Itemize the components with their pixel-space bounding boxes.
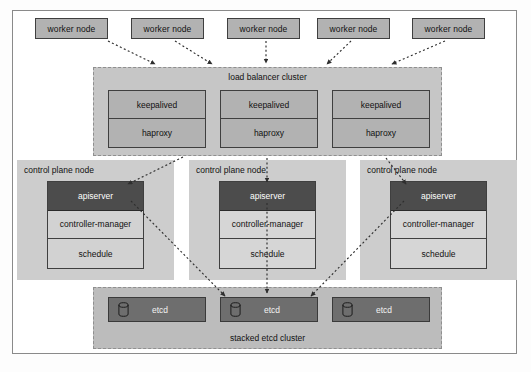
- diagram-canvas: worker node worker node worker node work…: [0, 0, 531, 372]
- database-cylinder-icon: [230, 302, 241, 317]
- control-plane-node-label: control plane node: [24, 165, 94, 175]
- haproxy-box: haproxy: [333, 119, 429, 147]
- worker-node-label: worker node: [330, 24, 378, 34]
- keepalived-box: keepalived: [109, 91, 205, 119]
- control-plane-component-stack: apiserver controller-manager schedule: [390, 181, 487, 269]
- controller-manager-box: controller-manager: [391, 211, 486, 240]
- worker-node-box-5: worker node: [412, 18, 485, 39]
- worker-node-box-4: worker node: [317, 18, 390, 39]
- etcd-label: etcd: [353, 305, 415, 315]
- stacked-etcd-cluster-label: stacked etcd cluster: [94, 333, 441, 343]
- keepalived-box: keepalived: [333, 91, 429, 119]
- load-balancer-member-3: keepalived haproxy: [332, 90, 430, 148]
- worker-node-label: worker node: [48, 24, 96, 34]
- control-plane-node-2: control plane node apiserver controller-…: [189, 160, 346, 280]
- figure-caption: [0, 360, 531, 372]
- control-plane-node-1: control plane node apiserver controller-…: [17, 160, 174, 280]
- control-plane-component-stack: apiserver controller-manager schedule: [47, 181, 144, 269]
- apiserver-box: apiserver: [48, 182, 143, 211]
- worker-node-box-2: worker node: [131, 18, 204, 39]
- database-cylinder-icon: [118, 302, 129, 317]
- controller-manager-box: controller-manager: [220, 211, 315, 240]
- schedule-box: schedule: [48, 239, 143, 268]
- schedule-box: schedule: [391, 239, 486, 268]
- load-balancer-member-1: keepalived haproxy: [108, 90, 206, 148]
- load-balancer-cluster-group: load balancer cluster keepalived haproxy…: [93, 67, 442, 156]
- etcd-box-3: etcd: [332, 297, 430, 322]
- stacked-etcd-cluster-group: etcd etcd etcd stacked etcd cluster: [93, 287, 442, 349]
- control-plane-node-3: control plane node apiserver controller-…: [360, 160, 517, 280]
- etcd-box-1: etcd: [108, 297, 206, 322]
- schedule-box: schedule: [220, 239, 315, 268]
- control-plane-node-label: control plane node: [367, 165, 437, 175]
- control-plane-component-stack: apiserver controller-manager schedule: [219, 181, 316, 269]
- database-cylinder-icon: [342, 302, 353, 317]
- load-balancer-member-2: keepalived haproxy: [220, 90, 318, 148]
- etcd-label: etcd: [241, 305, 303, 315]
- load-balancer-cluster-label: load balancer cluster: [94, 72, 441, 82]
- etcd-label: etcd: [129, 305, 191, 315]
- haproxy-box: haproxy: [221, 119, 317, 147]
- etcd-box-2: etcd: [220, 297, 318, 322]
- worker-node-box-3: worker node: [227, 18, 300, 39]
- controller-manager-box: controller-manager: [48, 211, 143, 240]
- worker-node-label: worker node: [425, 24, 473, 34]
- apiserver-box: apiserver: [391, 182, 486, 211]
- worker-node-label: worker node: [240, 24, 288, 34]
- control-plane-node-label: control plane node: [196, 165, 266, 175]
- keepalived-box: keepalived: [221, 91, 317, 119]
- apiserver-box: apiserver: [220, 182, 315, 211]
- worker-node-label: worker node: [144, 24, 192, 34]
- haproxy-box: haproxy: [109, 119, 205, 147]
- worker-node-box-1: worker node: [35, 18, 108, 39]
